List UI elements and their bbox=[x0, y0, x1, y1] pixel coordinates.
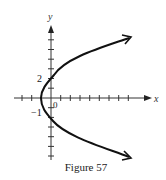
tick-label-2: 2 bbox=[37, 73, 42, 84]
tick-label-neg1: −1 bbox=[31, 107, 42, 118]
parabola-figure: y x 2 −1 0 bbox=[0, 0, 166, 180]
x-axis-arrow-icon bbox=[144, 95, 152, 101]
y-axis-label: y bbox=[47, 11, 53, 22]
figure-caption: Figure 57 bbox=[0, 161, 166, 173]
x-axis-label: x bbox=[153, 93, 159, 104]
origin-label: 0 bbox=[53, 100, 58, 110]
y-axis-arrow-icon bbox=[48, 25, 54, 33]
